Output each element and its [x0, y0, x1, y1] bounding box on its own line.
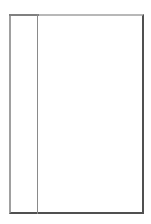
book-spine	[11, 16, 37, 212]
book-cover	[38, 16, 142, 212]
